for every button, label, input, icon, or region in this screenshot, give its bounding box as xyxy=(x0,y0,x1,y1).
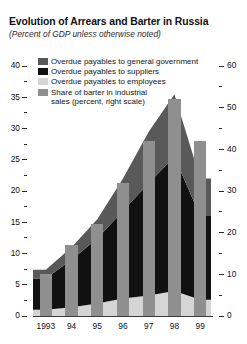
left-axis: 0510152025303540 xyxy=(6,0,27,344)
chart-canvas xyxy=(33,63,211,316)
left-axis-label: 40 xyxy=(4,61,20,69)
chart-figure: Evolution of Arrears and Barter in Russi… xyxy=(0,0,247,344)
left-axis-tick-major xyxy=(22,97,27,98)
right-axis-tick-minor xyxy=(219,170,222,171)
x-axis-labels: 1993949596979899 xyxy=(0,322,247,336)
left-axis-label: 0 xyxy=(4,311,20,319)
left-axis-tick-major xyxy=(22,66,27,67)
left-axis-label: 15 xyxy=(4,218,20,226)
left-axis-tick-major xyxy=(22,159,27,160)
bar-barter-share xyxy=(65,245,77,316)
left-axis-tick-minor xyxy=(24,237,27,238)
bar-barter-share xyxy=(143,141,155,316)
bar-barter-share xyxy=(168,99,180,316)
left-axis-tick-minor xyxy=(24,269,27,270)
plot-area xyxy=(33,63,211,316)
right-axis-tick-major xyxy=(219,66,224,67)
left-axis-tick-major xyxy=(22,222,27,223)
right-axis-tick-major xyxy=(219,107,224,108)
left-axis-tick-major xyxy=(22,191,27,192)
right-axis-label: 50 xyxy=(227,103,245,111)
right-axis-label: 60 xyxy=(227,61,245,69)
page-title: Evolution of Arrears and Barter in Russi… xyxy=(9,16,241,28)
right-axis-tick-minor xyxy=(219,295,222,296)
left-axis-label: 10 xyxy=(4,249,20,257)
right-axis-label: 30 xyxy=(227,186,245,194)
left-axis-tick-minor xyxy=(24,300,27,301)
right-axis-tick-major xyxy=(219,316,224,317)
left-axis-tick-major xyxy=(22,128,27,129)
right-axis-tick-minor xyxy=(219,86,222,87)
right-axis-label: 20 xyxy=(227,228,245,236)
x-axis-line xyxy=(33,316,213,317)
left-axis-tick-major xyxy=(22,253,27,254)
left-axis-tick-minor xyxy=(24,206,27,207)
left-axis-tick-minor xyxy=(24,175,27,176)
x-axis-label: 99 xyxy=(183,322,217,331)
left-axis-label: 5 xyxy=(4,280,20,288)
right-axis-tick-major xyxy=(219,191,224,192)
right-axis-label: 10 xyxy=(227,270,245,278)
bar-barter-share xyxy=(194,141,206,316)
left-axis-tick-minor xyxy=(24,112,27,113)
right-axis-tick-minor xyxy=(219,211,222,212)
left-axis-tick-major xyxy=(22,284,27,285)
right-axis-tick-minor xyxy=(219,253,222,254)
right-axis: 0102030405060 xyxy=(219,0,245,344)
right-axis-label: 0 xyxy=(227,311,245,319)
left-axis-label: 35 xyxy=(4,93,20,101)
right-axis-tick-major xyxy=(219,149,224,150)
bar-barter-share xyxy=(91,224,103,316)
left-axis-label: 30 xyxy=(4,124,20,132)
bar-barter-share xyxy=(117,183,129,316)
left-axis-label: 25 xyxy=(4,155,20,163)
left-axis-label: 20 xyxy=(4,186,20,194)
right-axis-tick-major xyxy=(219,232,224,233)
left-axis-tick-major xyxy=(22,316,27,317)
chart-subtitle: (Percent of GDP unless otherwise noted) xyxy=(9,29,241,39)
right-axis-tick-minor xyxy=(219,128,222,129)
right-axis-label: 40 xyxy=(227,145,245,153)
right-axis-tick-major xyxy=(219,274,224,275)
left-axis-tick-minor xyxy=(24,144,27,145)
bar-barter-share xyxy=(40,274,52,316)
left-axis-tick-minor xyxy=(24,81,27,82)
